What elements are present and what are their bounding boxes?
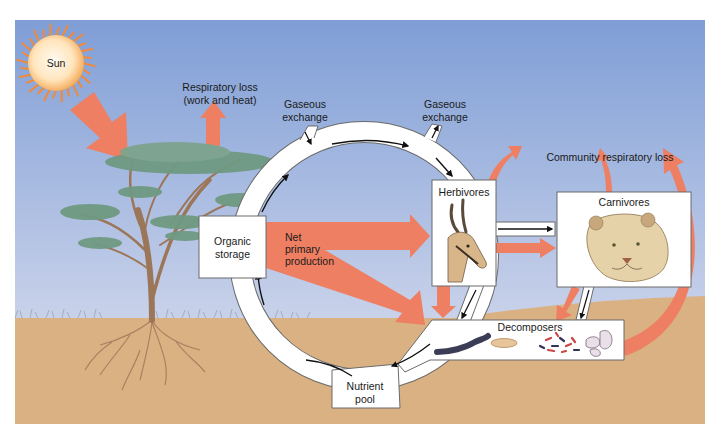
ecosystem-diagram: Sun Respiratory loss (work and heat) Gas… <box>0 0 720 436</box>
sun-ray <box>82 57 90 58</box>
gaseous-exchange-left-line1: Gaseous <box>270 98 340 110</box>
gaseous-exchange-left-line2: exchange <box>270 111 340 123</box>
nutrient-pool-label-line2: pool <box>332 393 398 405</box>
grub-icon <box>491 339 517 348</box>
npp-label-line1: Net <box>285 231 301 243</box>
npp-label-line2: primary <box>285 243 320 255</box>
carnivores-box: Carnivores <box>557 192 691 212</box>
respiratory-loss-label-line2: (work and heat) <box>170 94 270 106</box>
decomposers-label: Decomposers <box>480 321 580 333</box>
organic-storage-label-line1: Organic <box>199 235 266 247</box>
carnivores-label: Carnivores <box>557 196 691 208</box>
npp-label-line3: production <box>285 255 334 267</box>
organic-storage-label-line2: storage <box>199 248 266 260</box>
sun-ray <box>43 30 44 38</box>
herbivores-box: Herbivores <box>432 180 496 200</box>
herbivores-label: Herbivores <box>432 186 496 198</box>
sun-label: Sun <box>40 57 72 69</box>
respiratory-loss-label-line1: Respiratory loss <box>170 81 270 93</box>
sun-ray <box>68 87 69 95</box>
gaseous-exchange-right-line1: Gaseous <box>410 98 480 110</box>
gaseous-exchange-right-line2: exchange <box>410 111 480 123</box>
community-respiratory-loss-label: Community respiratory loss <box>520 151 700 163</box>
organic-storage-box: Organic storage <box>199 216 266 278</box>
nutrient-pool-label-line1: Nutrient <box>332 380 398 392</box>
diagram-canvas <box>0 0 720 436</box>
sun-ray <box>21 68 29 69</box>
